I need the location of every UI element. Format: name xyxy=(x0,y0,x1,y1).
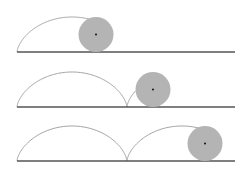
cycloid-panel-stage-2 xyxy=(17,72,235,107)
cycloid-panel-stage-3 xyxy=(17,126,235,161)
wheel-center-dot xyxy=(95,34,97,36)
cycloid-diagram xyxy=(0,0,249,175)
wheel-center-dot xyxy=(152,89,154,91)
wheel-center-dot xyxy=(204,143,206,145)
cycloid-panel-stage-1 xyxy=(17,17,235,52)
cycloid-curve xyxy=(17,72,136,107)
